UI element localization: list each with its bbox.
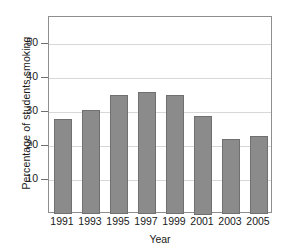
y-tick-mark-50 — [41, 43, 48, 44]
x-tick-label-2003: 2003 — [216, 216, 244, 227]
bar-1993 — [82, 110, 100, 214]
y-tick-label-40: 40 — [0, 71, 38, 82]
bar-1995 — [110, 95, 128, 214]
y-tick-label-10: 10 — [0, 173, 38, 184]
x-tick-label-1999: 1999 — [160, 216, 188, 227]
y-tick-mark-10 — [41, 179, 48, 180]
bar-1997 — [138, 92, 156, 214]
y-tick-mark-20 — [41, 145, 48, 146]
bar-2003 — [222, 139, 240, 214]
x-axis-title: Year — [48, 233, 272, 245]
y-tick-mark-40 — [41, 77, 48, 78]
bar-1991 — [54, 119, 72, 214]
gridline-40 — [49, 78, 271, 79]
y-tick-label-50: 50 — [0, 37, 38, 48]
gridline-50 — [49, 44, 271, 45]
bar-2005 — [250, 136, 268, 214]
x-tick-label-2005: 2005 — [244, 216, 272, 227]
y-tick-label-30: 30 — [0, 105, 38, 116]
x-tick-label-2001: 2001 — [188, 216, 216, 227]
x-tick-label-1991: 1991 — [48, 216, 76, 227]
plot-area — [48, 16, 272, 213]
bar-2001 — [194, 116, 212, 215]
x-tick-label-1993: 1993 — [76, 216, 104, 227]
x-tick-label-1997: 1997 — [132, 216, 160, 227]
y-tick-mark-30 — [41, 111, 48, 112]
x-tick-label-1995: 1995 — [104, 216, 132, 227]
y-tick-label-20: 20 — [0, 139, 38, 150]
bar-chart: Percentage of students smoking 102030405… — [0, 0, 288, 250]
bar-1999 — [166, 95, 184, 214]
